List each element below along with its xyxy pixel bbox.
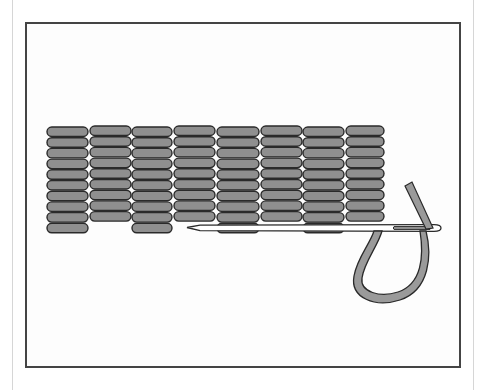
stitch [261, 212, 302, 222]
stitch [132, 191, 172, 201]
stitch [261, 180, 302, 190]
stitch [303, 181, 344, 191]
stitch [47, 223, 88, 233]
stitch [346, 180, 384, 190]
stitch [346, 126, 384, 136]
stitch [132, 202, 172, 212]
stitch [261, 201, 302, 211]
needle-icon [187, 225, 441, 232]
stitch [174, 190, 215, 200]
stitch [47, 159, 88, 169]
stitch [132, 213, 172, 223]
stitch [47, 170, 88, 180]
stitch-grid [47, 126, 384, 233]
stitch [90, 190, 131, 200]
stitch [132, 159, 172, 169]
stitch [174, 201, 215, 211]
stitch [90, 212, 131, 222]
stitch [174, 212, 215, 222]
stitch [217, 202, 259, 212]
stitch [346, 137, 384, 147]
stitch [132, 148, 172, 158]
stitch [90, 180, 131, 190]
stitch [303, 148, 344, 158]
stitch [47, 213, 88, 223]
stitch [132, 127, 172, 137]
stitch [47, 181, 88, 191]
stitch [90, 158, 131, 168]
stitch [303, 138, 344, 148]
stitch [90, 137, 131, 147]
stitch [217, 181, 259, 191]
stitch [261, 158, 302, 168]
stitch [90, 126, 131, 136]
stitch [47, 191, 88, 201]
stitch [174, 158, 215, 168]
stitch [132, 181, 172, 191]
stitch [217, 170, 259, 180]
stitch [303, 127, 344, 137]
stitch [303, 191, 344, 201]
stitch [261, 169, 302, 179]
stitch [346, 201, 384, 211]
stitch [47, 127, 88, 137]
stitch [132, 170, 172, 180]
stitch [132, 138, 172, 148]
stitch [174, 180, 215, 190]
stitch [47, 138, 88, 148]
stitch [217, 138, 259, 148]
stitch [346, 212, 384, 222]
stitch [261, 137, 302, 147]
stitch [90, 201, 131, 211]
stitch [346, 147, 384, 157]
stitch [217, 191, 259, 201]
stitch [346, 169, 384, 179]
stitch [303, 170, 344, 180]
stitch [261, 190, 302, 200]
stitch [47, 202, 88, 212]
stitch [303, 202, 344, 212]
stitch [217, 127, 259, 137]
stitch [303, 159, 344, 169]
stitch [47, 148, 88, 158]
stitch [132, 223, 172, 233]
stitch [174, 126, 215, 136]
stitch [217, 148, 259, 158]
stitch [261, 147, 302, 157]
stitch [90, 147, 131, 157]
stitch [217, 213, 259, 223]
stitch [174, 169, 215, 179]
stitch [90, 169, 131, 179]
stitch [346, 158, 384, 168]
stitch [261, 126, 302, 136]
stitch [346, 190, 384, 200]
stitch [217, 159, 259, 169]
stitch [174, 147, 215, 157]
stitch [174, 137, 215, 147]
stitch [303, 213, 344, 223]
